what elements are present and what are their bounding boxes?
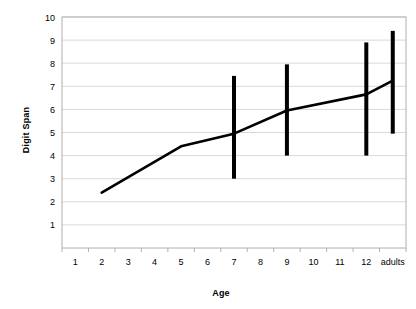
y-axis-title: Digit Span: [21, 107, 31, 154]
y-tick-label: 8: [50, 59, 55, 69]
x-tick-label: 9: [284, 257, 289, 267]
x-tick-label: 1: [73, 257, 78, 267]
y-tick-label: 6: [50, 105, 55, 115]
y-axis-tick-labels: 12345678910: [45, 13, 55, 231]
y-tick-label: 5: [50, 128, 55, 138]
x-tick-label: 2: [99, 257, 104, 267]
x-axis-title: Age: [212, 288, 230, 298]
x-axis-tick-labels: 123456789101112adults: [73, 257, 406, 267]
x-tick-label: adults: [381, 257, 406, 267]
x-tick-label: 12: [361, 257, 371, 267]
chart-canvas: 12345678910 123456789101112adults Digit …: [0, 0, 416, 309]
y-tick-label: 4: [50, 151, 55, 161]
x-tick-label: 4: [152, 257, 157, 267]
x-tick-label: 6: [205, 257, 210, 267]
y-tick-label: 1: [50, 220, 55, 230]
x-tick-label: 8: [258, 257, 263, 267]
y-tick-label: 9: [50, 36, 55, 46]
x-tick-label: 10: [308, 257, 318, 267]
y-tick-label: 10: [45, 13, 55, 23]
digit-span-chart: 12345678910 123456789101112adults Digit …: [0, 0, 416, 309]
x-tick-label: 7: [231, 257, 236, 267]
y-tick-label: 3: [50, 174, 55, 184]
x-axis-ticks: [62, 248, 406, 252]
x-tick-label: 5: [179, 257, 184, 267]
x-tick-label: 11: [335, 257, 344, 267]
y-tick-label: 2: [50, 197, 55, 207]
y-tick-label: 7: [50, 82, 55, 92]
x-tick-label: 3: [126, 257, 131, 267]
